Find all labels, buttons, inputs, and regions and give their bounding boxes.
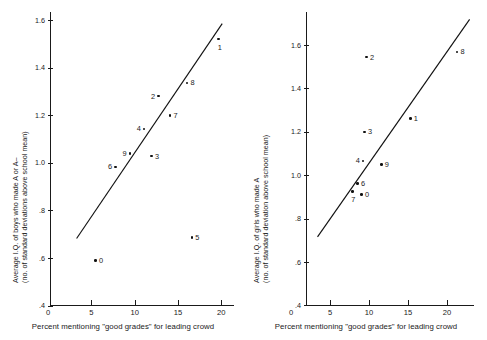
- data-point: [94, 259, 97, 262]
- data-point-label: 3: [368, 128, 372, 135]
- chart-panel-boys: .4.6.81.01.21.41.605101520Average I.Q. o…: [0, 0, 244, 340]
- data-point: [356, 182, 359, 185]
- data-point-label: 3: [155, 153, 159, 160]
- regression-line: [0, 0, 244, 340]
- data-point: [409, 117, 412, 120]
- data-point-label: 4: [137, 125, 141, 132]
- data-point: [360, 193, 363, 196]
- data-point: [363, 131, 366, 134]
- data-point-label: 2: [151, 93, 155, 100]
- data-point-label: 0: [99, 257, 103, 264]
- data-point-label: 9: [385, 161, 389, 168]
- data-point: [351, 190, 354, 193]
- data-point-label: 4: [356, 157, 360, 164]
- data-point-label: 1: [218, 44, 222, 51]
- data-point-label: 9: [122, 150, 126, 157]
- data-point-label: 0: [365, 191, 369, 198]
- data-point-label: 6: [108, 163, 112, 170]
- data-point: [380, 163, 383, 166]
- data-point-label: 1: [414, 115, 418, 122]
- data-point: [191, 236, 194, 239]
- data-point-label: 2: [370, 54, 374, 61]
- figure-scatter-pair: .4.6.81.01.21.41.605101520Average I.Q. o…: [0, 0, 487, 340]
- data-point: [129, 152, 132, 155]
- data-point-label: 6: [361, 180, 365, 187]
- regression-line: [243, 0, 487, 340]
- data-point-label: 7: [351, 196, 355, 203]
- data-point-label: 7: [174, 112, 178, 119]
- data-point-label: 5: [195, 234, 199, 241]
- data-point-label: 8: [190, 79, 194, 86]
- chart-panel-girls: .4.6.81.01.21.41.605101520Average I.Q. o…: [243, 0, 487, 340]
- data-point-label: 8: [461, 48, 465, 55]
